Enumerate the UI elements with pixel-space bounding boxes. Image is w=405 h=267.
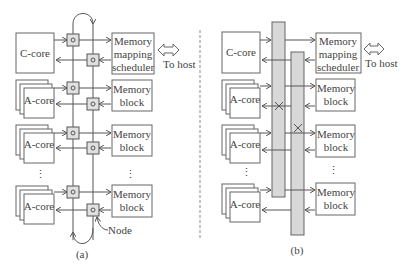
bottom-loop-arrow xyxy=(73,228,93,244)
svg-text:block: block xyxy=(120,201,145,213)
ellipsis: ⋮ xyxy=(125,168,136,180)
scheduler-label-3: scheduler xyxy=(112,61,154,73)
a-core-row-2: A-core Memory block xyxy=(16,125,152,163)
scheduler-label-2: mapping xyxy=(114,48,153,60)
svg-text:A-core: A-core xyxy=(230,198,261,210)
svg-text:Memory: Memory xyxy=(319,35,357,47)
b-row-2: A-core Memory block xyxy=(222,124,355,163)
node-pointer xyxy=(97,217,108,230)
c-core-label: C-core xyxy=(20,47,50,59)
b-row-3: A-core Memory block xyxy=(222,183,355,222)
svg-text:Memory: Memory xyxy=(317,82,355,94)
svg-text:Memory: Memory xyxy=(113,83,151,95)
svg-text:block: block xyxy=(324,141,349,153)
svg-text:⋮: ⋮ xyxy=(241,166,252,178)
to-host-arrow-icon xyxy=(158,44,179,56)
bus-bar-2 xyxy=(291,52,304,235)
architecture-diagram: C-core Memory mapping scheduler To host … xyxy=(0,0,405,267)
to-host-arrow-icon xyxy=(364,43,384,55)
svg-text:block: block xyxy=(324,199,349,211)
caption-a: (a) xyxy=(76,248,89,261)
to-host-label: To host xyxy=(163,58,196,70)
panel-b: C-core Memory mapping scheduler To host … xyxy=(222,22,398,257)
svg-text:A-core: A-core xyxy=(230,93,261,105)
a-core-row-1: A-core Memory block xyxy=(16,80,152,118)
svg-text:block: block xyxy=(324,95,349,107)
panel-a: C-core Memory mapping scheduler To host … xyxy=(16,14,196,262)
a-core-label: A-core xyxy=(24,94,55,106)
svg-text:block: block xyxy=(120,96,145,108)
svg-text:C-core: C-core xyxy=(226,46,256,58)
scheduler-label-1: Memory xyxy=(114,35,152,47)
b-row-1: A-core Memory block xyxy=(222,79,355,118)
svg-text:Memory: Memory xyxy=(317,128,355,140)
svg-text:scheduler: scheduler xyxy=(317,61,359,73)
node xyxy=(67,34,79,46)
svg-text:Memory: Memory xyxy=(113,188,151,200)
svg-text:A-core: A-core xyxy=(24,138,55,150)
svg-text:Memory: Memory xyxy=(317,186,355,198)
svg-text:To host: To host xyxy=(365,57,398,69)
a-core-row-3: A-core Memory block xyxy=(16,185,152,224)
node-label: Node xyxy=(108,224,132,236)
node xyxy=(87,54,99,66)
svg-text:A-core: A-core xyxy=(230,138,261,150)
svg-text:mapping: mapping xyxy=(319,48,358,60)
svg-text:block: block xyxy=(120,141,145,153)
ellipsis: ⋮ xyxy=(35,168,46,180)
svg-text:Memory: Memory xyxy=(113,128,151,140)
top-loop-arrow xyxy=(73,14,93,25)
svg-text:⋮: ⋮ xyxy=(328,164,339,176)
labeled-node xyxy=(87,204,99,216)
caption-b: (b) xyxy=(291,244,304,257)
svg-text:A-core: A-core xyxy=(24,200,55,212)
